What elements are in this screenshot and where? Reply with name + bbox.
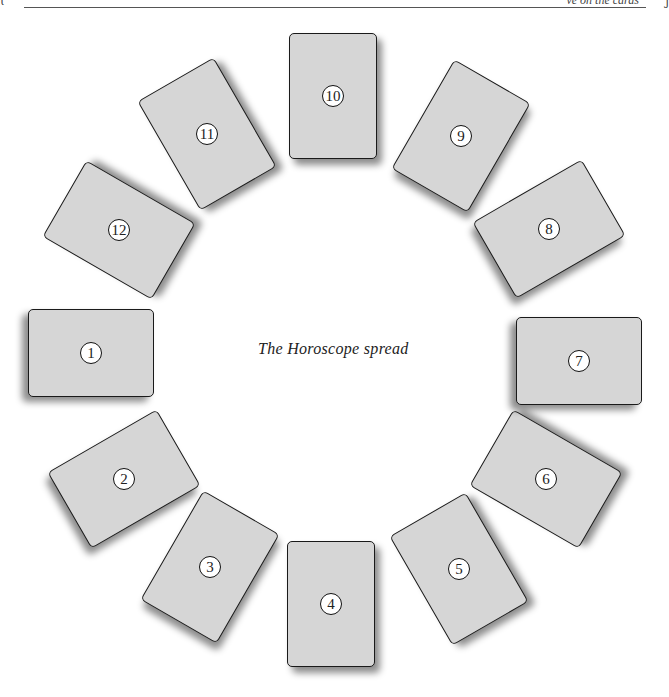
header-rule [24, 7, 646, 8]
position-number-badge: 5 [448, 558, 470, 580]
running-header: ve on the cards [566, 0, 639, 8]
card-position-5: 5 [389, 492, 528, 645]
card-position-2: 2 [47, 409, 200, 548]
card-position-7: 7 [516, 317, 642, 405]
position-number-badge: 7 [568, 350, 590, 372]
card-position-4: 4 [287, 541, 375, 667]
position-number-badge: 3 [199, 556, 221, 578]
position-number-badge: 9 [450, 125, 472, 147]
card-position-12: 12 [42, 160, 195, 299]
spread-caption: The Horoscope spread [258, 340, 409, 358]
card-position-11: 11 [137, 57, 276, 210]
position-number-badge: 4 [320, 593, 342, 615]
position-number-badge: 6 [535, 468, 557, 490]
left-edge-mark: ɩ [0, 0, 5, 8]
card-position-6: 6 [469, 409, 622, 548]
right-edge-mark: ȷ [665, 0, 669, 8]
position-number-badge: 1 [80, 342, 102, 364]
position-number-badge: 2 [113, 468, 135, 490]
position-number-badge: 12 [108, 219, 130, 241]
position-number-badge: 8 [538, 218, 560, 240]
card-position-3: 3 [140, 490, 279, 643]
position-number-badge: 10 [322, 85, 344, 107]
card-position-10: 10 [289, 33, 377, 159]
card-position-1: 1 [28, 309, 154, 397]
card-position-8: 8 [472, 159, 625, 298]
card-position-9: 9 [391, 59, 530, 212]
position-number-badge: 11 [196, 123, 218, 145]
